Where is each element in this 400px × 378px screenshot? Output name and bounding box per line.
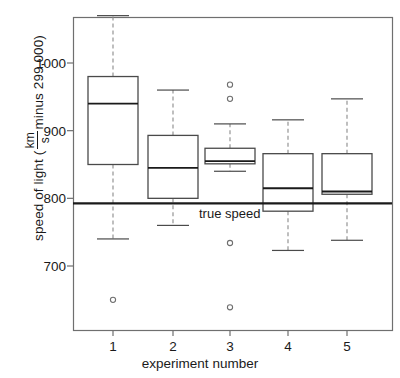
x-tick-label: 2 bbox=[169, 339, 177, 354]
x-tick-label: 3 bbox=[226, 339, 234, 354]
y-tick-label: 800 bbox=[18, 191, 66, 206]
outlier-point bbox=[227, 82, 232, 87]
box-4 bbox=[263, 120, 313, 251]
y-tick-label: 700 bbox=[18, 259, 66, 274]
y-axis-label-suffix: minus 299,000) bbox=[31, 35, 46, 129]
box-2 bbox=[148, 90, 198, 225]
outlier-point bbox=[110, 297, 115, 302]
x-tick-label: 4 bbox=[284, 339, 292, 354]
y-axis-label: speed of light (kms minus 299,000) bbox=[18, 0, 58, 288]
outlier-point bbox=[227, 305, 232, 310]
box-3 bbox=[205, 82, 255, 310]
box-rect bbox=[322, 154, 372, 195]
x-tick-label: 5 bbox=[343, 339, 351, 354]
x-axis-label: experiment number bbox=[0, 356, 400, 371]
outlier-point bbox=[227, 240, 232, 245]
x-tick-label: 1 bbox=[109, 339, 117, 354]
boxplot-figure: speed of light (kms minus 299,000) exper… bbox=[0, 0, 400, 378]
y-tick-label: 1000 bbox=[18, 56, 66, 71]
outlier-point bbox=[227, 96, 232, 101]
box-rect bbox=[88, 77, 138, 165]
true-speed-annotation: true speed bbox=[199, 206, 260, 221]
y-tick-label: 900 bbox=[18, 123, 66, 138]
box-5 bbox=[322, 99, 372, 240]
box-rect bbox=[148, 135, 198, 198]
box-1 bbox=[88, 16, 138, 303]
